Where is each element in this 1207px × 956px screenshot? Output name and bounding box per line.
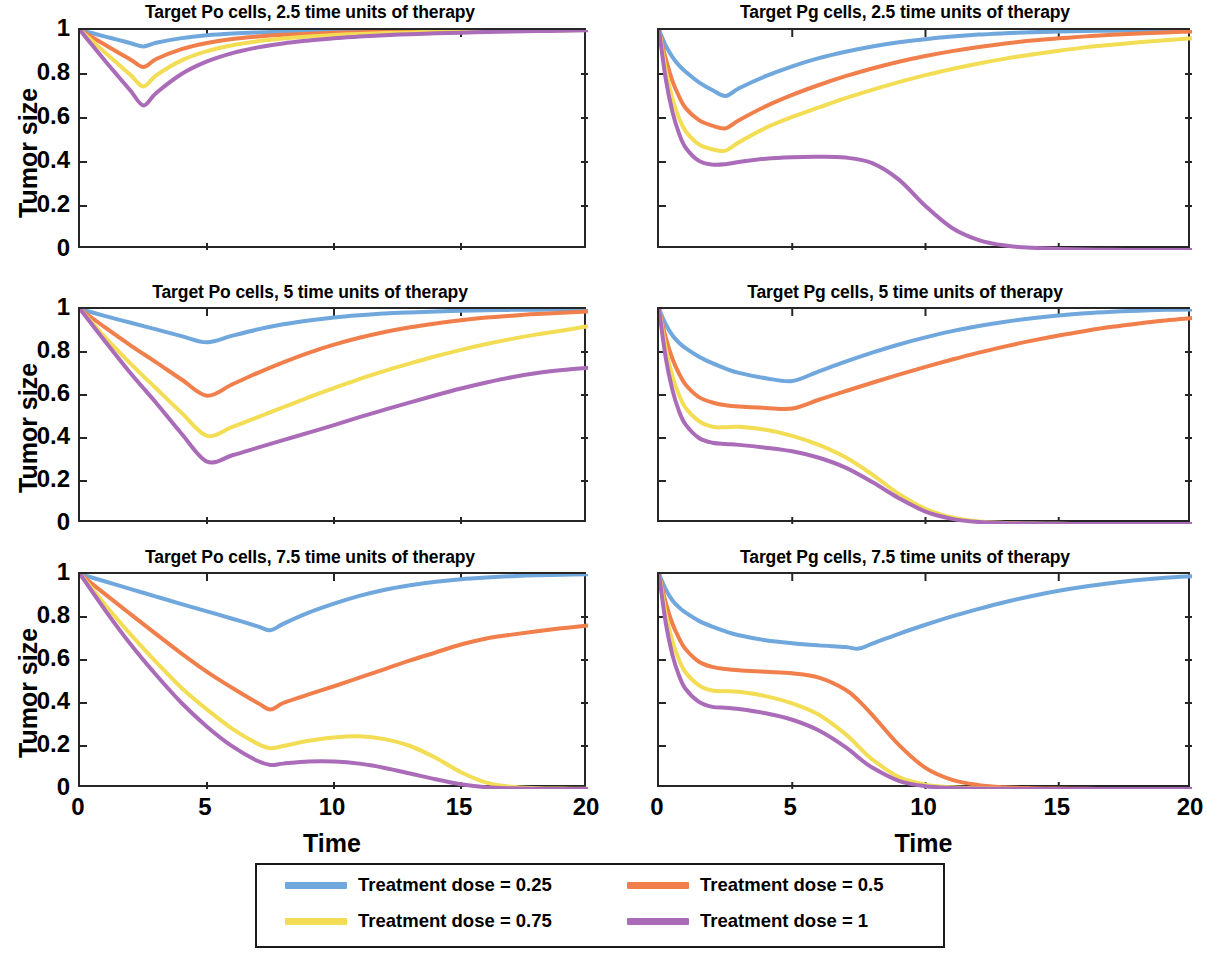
legend-label-dose-0p75: Treatment dose = 0.75	[358, 910, 552, 932]
legend-swatch-dose-0p5	[627, 882, 689, 889]
y-tick-label: 0.2	[2, 467, 70, 491]
y-tick-label: 1	[2, 16, 70, 40]
plot-area	[78, 307, 586, 522]
plot-curves	[80, 309, 588, 524]
y-tick-label: 1	[2, 295, 70, 319]
series-line	[80, 309, 588, 396]
y-tick-label: 0.6	[2, 381, 70, 405]
y-tick-label: 0.8	[2, 603, 70, 627]
series-line	[659, 30, 1192, 96]
panel-title: Target Pg cells, 7.5 time units of thera…	[620, 547, 1190, 568]
legend-swatch-dose-0p25	[285, 882, 347, 889]
series-line	[659, 574, 1192, 789]
panel-pg-5: Target Pg cells, 5 time units of therapy	[600, 280, 1200, 545]
series-line	[80, 574, 588, 630]
y-tick-label: 0.8	[2, 60, 70, 84]
x-tick-label: 0	[627, 795, 687, 819]
plot-area	[657, 572, 1190, 787]
plot-area	[657, 28, 1190, 248]
x-tick-label: 20	[1160, 795, 1207, 819]
series-line	[659, 309, 1192, 524]
x-tick-label: 15	[1027, 795, 1087, 819]
y-tick-label: 0	[2, 236, 70, 260]
legend-label-dose-0p5: Treatment dose = 0.5	[700, 874, 884, 896]
y-tick-label: 0.4	[2, 689, 70, 713]
x-axis-label: Time	[657, 829, 1190, 858]
series-line	[659, 309, 1192, 524]
panel-title: Target Po cells, 2.5 time units of thera…	[20, 2, 600, 23]
plot-area	[78, 28, 586, 248]
legend-entry-dose-0p5[interactable]: Treatment dose = 0.5	[627, 874, 884, 896]
panel-pg-2p5: Target Pg cells, 2.5 time units of thera…	[600, 0, 1200, 270]
panel-title: Target Pg cells, 2.5 time units of thera…	[620, 2, 1190, 23]
y-tick-label: 0.6	[2, 104, 70, 128]
plot-curves	[80, 30, 588, 250]
series-line	[80, 574, 588, 709]
panel-po-2p5: Target Po cells, 2.5 time units of thera…	[0, 0, 600, 270]
panel-po-7p5: Target Po cells, 7.5 time units of thera…	[0, 545, 600, 845]
series-line	[659, 309, 1192, 381]
legend-row: Treatment dose = 0.75 Treatment dose = 1	[257, 910, 943, 951]
legend-label-dose-1: Treatment dose = 1	[700, 910, 868, 932]
panel-pg-7p5: Target Pg cells, 7.5 time units of thera…	[600, 545, 1200, 845]
plot-curves	[659, 30, 1192, 250]
x-tick-label: 10	[302, 795, 362, 819]
y-tick-label: 0.4	[2, 148, 70, 172]
plot-curves	[80, 574, 588, 789]
y-tick-label: 0.4	[2, 424, 70, 448]
series-line	[659, 574, 1192, 789]
y-tick-label: 0.6	[2, 646, 70, 670]
x-tick-label: 5	[760, 795, 820, 819]
x-tick-label: 10	[894, 795, 954, 819]
y-tick-label: 0	[2, 510, 70, 534]
plot-area	[657, 307, 1190, 522]
panel-po-5: Target Po cells, 5 time units of therapy…	[0, 280, 600, 545]
legend-entry-dose-0p25[interactable]: Treatment dose = 0.25	[285, 874, 552, 896]
panel-title: Target Po cells, 5 time units of therapy	[20, 282, 600, 303]
x-axis-label: Time	[78, 829, 586, 858]
plot-curves	[659, 574, 1192, 789]
panel-title: Target Po cells, 7.5 time units of thera…	[20, 547, 600, 568]
y-tick-label: 0.8	[2, 338, 70, 362]
y-tick-label: 0.2	[2, 192, 70, 216]
legend-entry-dose-0p75[interactable]: Treatment dose = 0.75	[285, 910, 552, 932]
series-line	[80, 574, 588, 789]
plot-area	[78, 572, 586, 787]
panel-title: Target Pg cells, 5 time units of therapy	[620, 282, 1190, 303]
x-tick-label: 5	[175, 795, 235, 819]
plot-curves	[659, 309, 1192, 524]
x-tick-label: 0	[48, 795, 108, 819]
y-tick-label: 0.2	[2, 732, 70, 756]
legend: Treatment dose = 0.25 Treatment dose = 0…	[255, 863, 945, 948]
series-line	[659, 574, 1192, 649]
legend-label-dose-0p25: Treatment dose = 0.25	[358, 874, 552, 896]
series-line	[659, 574, 1192, 789]
series-line	[80, 574, 588, 789]
legend-swatch-dose-1	[627, 918, 689, 925]
legend-row: Treatment dose = 0.25 Treatment dose = 0…	[257, 869, 943, 910]
x-tick-label: 15	[429, 795, 489, 819]
legend-entry-dose-1[interactable]: Treatment dose = 1	[627, 910, 868, 932]
series-line	[659, 309, 1192, 409]
legend-swatch-dose-0p75	[285, 918, 347, 925]
y-tick-label: 1	[2, 560, 70, 584]
